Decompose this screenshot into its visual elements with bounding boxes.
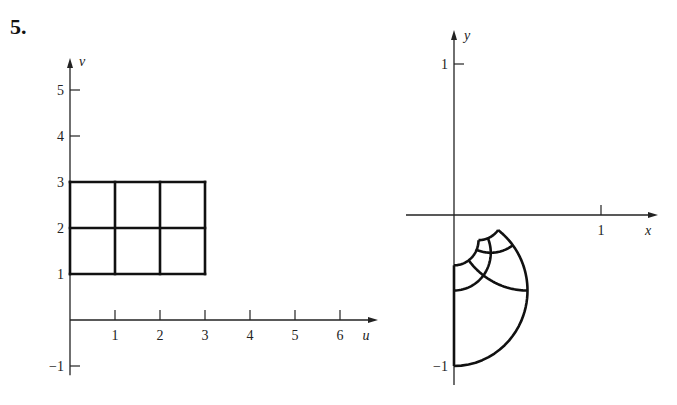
xy-plane-plot: yx11−1	[406, 28, 658, 385]
image-curve-v	[454, 240, 479, 265]
u-tick-label: 6	[337, 328, 344, 343]
y-axis-label: y	[462, 28, 471, 43]
v-tick-label: 4	[57, 129, 64, 144]
u-tick-label: 2	[157, 328, 164, 343]
y-tick-label: −1	[433, 359, 448, 374]
u-tick-label: 5	[292, 328, 299, 343]
u-axis-label: u	[363, 328, 370, 343]
image-curve-u	[477, 245, 513, 253]
x-axis-arrow-icon	[648, 212, 658, 218]
figure: vu123456−112345 yx11−1	[0, 0, 677, 405]
v-axis-label: v	[79, 54, 86, 69]
x-axis-label: x	[644, 223, 652, 238]
u-axis-arrow-icon	[368, 317, 378, 323]
v-axis-arrow-icon	[67, 58, 73, 68]
v-tick-label: 2	[57, 221, 64, 236]
image-curve-u	[469, 260, 528, 290]
u-tick-label: 4	[247, 328, 254, 343]
v-tick-label: −1	[49, 359, 64, 374]
uv-plane-plot: vu123456−112345	[49, 54, 378, 375]
u-tick-label: 3	[202, 328, 209, 343]
u-tick-label: 1	[112, 328, 119, 343]
x-tick-label: 1	[598, 223, 605, 238]
v-tick-label: 3	[57, 175, 64, 190]
v-tick-label: 1	[57, 267, 64, 282]
v-tick-label: 5	[57, 83, 64, 98]
y-tick-label: 1	[441, 57, 448, 72]
y-axis-arrow-icon	[451, 30, 457, 40]
